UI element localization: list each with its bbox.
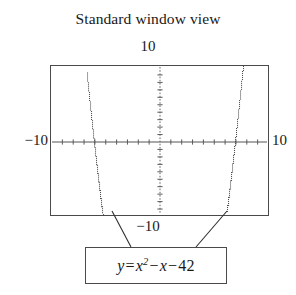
equation-equals: = bbox=[125, 257, 136, 274]
x-axis-min-label: −10 bbox=[8, 132, 48, 149]
equation-callout-box: y=x2−x−42 bbox=[85, 247, 227, 284]
equation-lhs: y bbox=[117, 257, 124, 274]
y-axis-min-label: −10 bbox=[0, 218, 296, 235]
equation-term2: x bbox=[160, 257, 167, 274]
figure-root: Standard window view 10 −10 10 −10 y=x2−… bbox=[0, 0, 296, 295]
equation-term3: 42 bbox=[178, 257, 194, 274]
equation-exponent: 2 bbox=[143, 255, 148, 266]
figure-title: Standard window view bbox=[0, 10, 296, 28]
y-axis-max-label: 10 bbox=[0, 38, 296, 55]
graph-window-frame bbox=[50, 65, 269, 216]
equation-term3-operator: − bbox=[167, 257, 178, 274]
equation-term2-operator: − bbox=[149, 257, 160, 274]
equation-text: y=x2−x−42 bbox=[117, 257, 195, 275]
equation-base: x bbox=[136, 257, 143, 274]
x-axis-max-label: 10 bbox=[272, 132, 296, 149]
